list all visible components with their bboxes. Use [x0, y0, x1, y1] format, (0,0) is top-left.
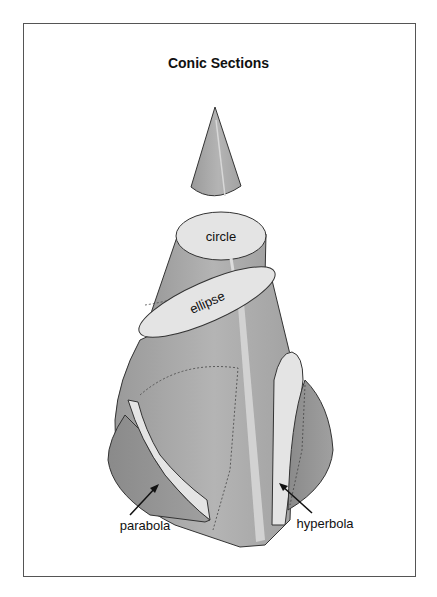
label-hyperbola: hyperbola — [296, 516, 354, 531]
label-circle: circle — [206, 229, 236, 244]
top-cone — [191, 107, 241, 196]
conic-sections-diagram: circle ellipse parabola hyperbola — [0, 0, 437, 597]
hyperbola-slice — [272, 352, 333, 525]
label-parabola: parabola — [120, 518, 171, 533]
